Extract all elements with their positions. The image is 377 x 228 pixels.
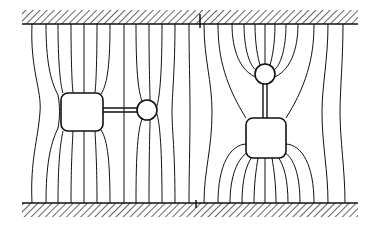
field-line-diagram: Field lines in a channel between two hat… xyxy=(0,0,377,228)
left-dumbbell-object xyxy=(61,93,157,131)
right-dumbbell-object xyxy=(246,64,286,158)
left-square-body xyxy=(61,93,103,131)
right-square-body xyxy=(246,118,286,158)
left-sphere xyxy=(137,100,157,120)
right-sphere xyxy=(255,64,275,84)
top-wall xyxy=(22,10,358,28)
bottom-wall xyxy=(22,200,358,217)
